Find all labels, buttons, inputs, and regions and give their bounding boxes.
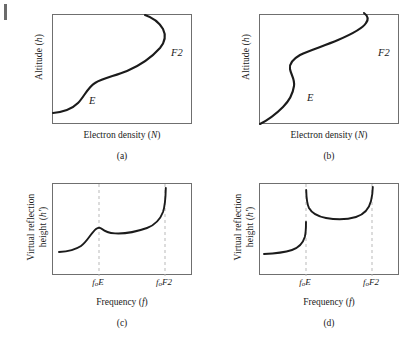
panel-a-ylabel-symbol: h — [34, 37, 44, 42]
f2-layer-label-b: F2 — [378, 47, 390, 58]
panel-b-xlabel: Electron density (N) — [259, 130, 399, 140]
panel-c-fof2-tick: foF2 — [144, 277, 184, 288]
panel-a: E F2 Altitude (h) Electron density (N) (… — [0, 8, 207, 173]
e-layer-label-a: E — [89, 95, 95, 106]
panel-b-curve-svg — [260, 15, 400, 125]
panel-d-ylabel-symbol: h' — [245, 210, 255, 217]
panel-a-caption: (a) — [52, 151, 192, 161]
panel-b-ylabel-symbol: h — [241, 37, 251, 42]
ionogram-curve-c — [59, 188, 166, 252]
figure-grid: E F2 Altitude (h) Electron density (N) (… — [0, 0, 415, 350]
panel-d-plot-frame — [259, 183, 399, 275]
panel-a-ylabel: Altitude (h) — [34, 2, 44, 112]
ionogram-curve-d-f-trace — [306, 187, 373, 219]
panel-c-ylabel-symbol: h' — [38, 210, 48, 217]
panel-c-xlabel: Frequency (f) — [52, 297, 192, 307]
electron-density-curve-a — [53, 15, 165, 113]
panel-d-curve-svg — [260, 184, 400, 276]
e-layer-label-b: E — [307, 92, 313, 103]
panel-d-fof2-tick: foF2 — [351, 277, 391, 288]
panel-a-curve-svg — [53, 15, 193, 125]
panel-b-caption: (b) — [259, 151, 399, 161]
panel-d-caption: (d) — [259, 318, 399, 328]
panel-d-xlabel: Frequency (f) — [259, 297, 399, 307]
panel-d: Virtual reflection height (h') foE foF2 … — [207, 173, 415, 343]
panel-c-caption: (c) — [52, 318, 192, 328]
electron-density-curve-b — [260, 13, 368, 124]
panel-c-plot-frame — [52, 183, 192, 275]
panel-c-ylabel: Virtual reflection height (h') — [26, 179, 49, 275]
panel-c: Virtual reflection height (h') foE foF2 … — [0, 173, 207, 343]
panel-b-plot-frame: E F2 — [259, 14, 399, 124]
panel-b: E F2 Altitude (h) Electron density (N) (… — [207, 8, 415, 173]
panel-b-ylabel: Altitude (h) — [241, 2, 251, 112]
panel-a-xlabel: Electron density (N) — [52, 130, 192, 140]
f2-layer-label-a: F2 — [171, 47, 183, 58]
panel-d-ylabel: Virtual reflection height (h') — [233, 179, 256, 275]
panel-a-plot-frame: E F2 — [52, 14, 192, 124]
panel-c-foe-tick: foE — [78, 277, 118, 288]
panel-c-curve-svg — [53, 184, 193, 276]
panel-d-foe-tick: foE — [285, 277, 325, 288]
ionogram-curve-d-e-trace — [264, 222, 306, 254]
